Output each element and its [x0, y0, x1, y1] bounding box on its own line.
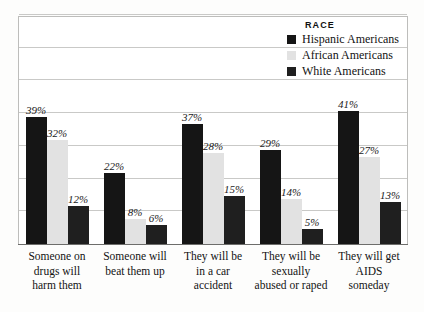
legend-item[interactable]: African Americans [287, 47, 412, 63]
bar [47, 140, 68, 245]
legend-title: RACE [305, 20, 412, 30]
bar [104, 173, 125, 245]
bar-value-label: 27% [359, 144, 380, 156]
category-label-line: Someone on [18, 249, 96, 264]
category-label: They will bein a caraccident [174, 249, 252, 293]
bar-value-label: 6% [146, 212, 167, 224]
x-axis-line [18, 244, 408, 245]
legend-swatch-icon [287, 67, 296, 76]
bar-value-label: 41% [338, 98, 359, 110]
category-label-line: someday [330, 278, 408, 293]
legend: RACE Hispanic AmericansAfrican Americans… [287, 20, 412, 79]
bar-chart: 39%32%12%22%8%6%37%28%15%29%14%5%41%27%1… [0, 0, 424, 312]
legend-item[interactable]: Hispanic Americans [287, 31, 412, 47]
legend-swatch-icon [287, 51, 296, 60]
bar-value-label: 22% [104, 160, 125, 172]
bar-value-label: 13% [380, 189, 401, 201]
bar-group: 22%8%6% [104, 16, 167, 245]
category-label-line: drugs will [18, 264, 96, 279]
category-label-line: accident [174, 278, 252, 293]
category-label-line: abused or raped [252, 278, 330, 293]
bar-value-label: 5% [302, 216, 323, 228]
bar-group: 39%32%12% [26, 16, 89, 245]
category-label: They will besexuallyabused or raped [252, 249, 330, 293]
gridline [19, 14, 407, 15]
bar-value-label: 28% [203, 140, 224, 152]
bar [182, 124, 203, 245]
bar [260, 150, 281, 245]
bar-value-label: 12% [68, 193, 89, 205]
category-label-line: They will get [330, 249, 408, 264]
bar-value-label: 15% [224, 183, 245, 195]
legend-rows: Hispanic AmericansAfrican AmericansWhite… [287, 31, 412, 79]
category-label-line: in a car [174, 264, 252, 279]
bar [302, 229, 323, 245]
category-labels: Someone ondrugs willharm themSomeone wil… [18, 249, 408, 309]
bar [26, 117, 47, 245]
bar-value-label: 14% [281, 186, 302, 198]
category-label-line: They will be [252, 249, 330, 264]
bar [125, 219, 146, 245]
category-label-line: sexually [252, 264, 330, 279]
legend-swatch-icon [287, 35, 296, 44]
bar-value-label: 32% [47, 127, 68, 139]
category-label: They will getAIDSsomeday [330, 249, 408, 293]
bar [203, 153, 224, 245]
bar [224, 196, 245, 245]
bar-value-label: 39% [26, 104, 47, 116]
bar-value-label: 29% [260, 137, 281, 149]
bar [68, 206, 89, 245]
legend-item-label: Hispanic Americans [302, 32, 399, 47]
category-label-line: beat them up [96, 264, 174, 279]
legend-item-label: White Americans [302, 64, 386, 79]
bar [380, 202, 401, 245]
category-label-line: Someone will [96, 249, 174, 264]
category-label: Someone ondrugs willharm them [18, 249, 96, 293]
bar [281, 199, 302, 245]
bar [146, 225, 167, 245]
bar-group: 37%28%15% [182, 16, 245, 245]
category-label-line: harm them [18, 278, 96, 293]
category-label-line: AIDS [330, 264, 408, 279]
category-label-line: They will be [174, 249, 252, 264]
legend-item[interactable]: White Americans [287, 63, 412, 79]
bar-value-label: 37% [182, 111, 203, 123]
bar-value-label: 8% [125, 206, 146, 218]
bar [338, 111, 359, 245]
category-label: Someone willbeat them up [96, 249, 174, 278]
legend-item-label: African Americans [302, 48, 393, 63]
bar [359, 157, 380, 245]
